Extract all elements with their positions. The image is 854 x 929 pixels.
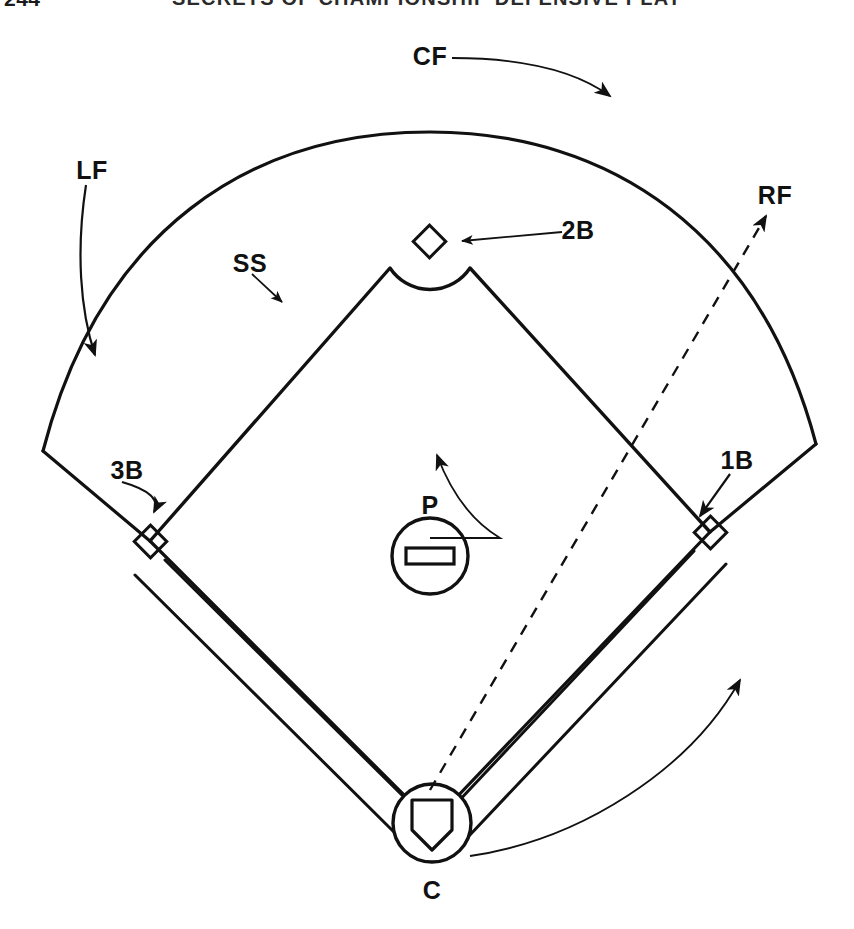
ss-arrow [252, 274, 282, 302]
label-ss: SS [233, 249, 267, 277]
label-lf: LF [76, 156, 108, 184]
label-c: C [423, 876, 442, 904]
catcher-arrow [470, 680, 740, 856]
label-p: P [421, 491, 438, 519]
label-1b: 1B [721, 446, 754, 474]
label-rf: RF [758, 181, 792, 209]
label-2b: 2B [562, 216, 595, 244]
second-base-bag [413, 225, 446, 258]
label-cf: CF [413, 42, 447, 70]
baseball-field-diagram: CF LF RF SS 2B 3B 1B P C [0, 0, 854, 929]
rf-arrow [430, 216, 766, 790]
pitchers-mound [392, 518, 468, 594]
third-base-arrow [122, 482, 156, 512]
cf-arrow [452, 58, 610, 96]
home-plate-area [393, 784, 471, 862]
label-3b: 3B [111, 456, 144, 484]
lf-arrow [80, 185, 95, 355]
first-base-arrow [700, 474, 730, 516]
pitching-rubber [406, 548, 454, 564]
page-canvas: 244 SECRETS OF CHAMPIONSHIP DEFENSIVE PL… [0, 0, 854, 929]
second-base-arrow [462, 232, 562, 241]
outfield-boundary [43, 132, 816, 823]
